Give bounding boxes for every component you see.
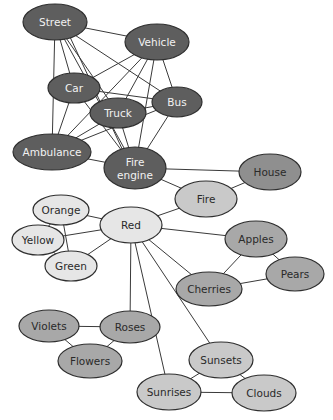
nodes-layer: StreetVehicleCarTruckBusAmbulanceFireeng… <box>12 4 324 411</box>
node-cherries: Cherries <box>176 272 242 306</box>
node-sunsets: Sunsets <box>189 342 253 378</box>
node-truck: Truck <box>90 98 146 128</box>
semantic-network-diagram: StreetVehicleCarTruckBusAmbulanceFireeng… <box>0 0 333 420</box>
node-label: Flowers <box>70 355 110 367</box>
node-fire: Fire <box>175 181 237 217</box>
node-sunrises: Sunrises <box>137 374 201 410</box>
node-label: Orange <box>42 204 81 216</box>
node-label: Cherries <box>187 283 231 295</box>
node-pears: Pears <box>266 257 324 291</box>
node-label: Apples <box>238 233 273 245</box>
node-yellow: Yellow <box>12 225 64 255</box>
node-ambulance: Ambulance <box>13 134 91 170</box>
node-label: Green <box>55 260 87 272</box>
node-flowers: Flowers <box>58 344 122 378</box>
node-label: Bus <box>167 96 186 108</box>
node-label: Ambulance <box>23 146 82 158</box>
node-label: Roses <box>115 321 146 333</box>
node-label: Sunrises <box>147 386 192 398</box>
edge-red-sunrises <box>131 225 169 392</box>
node-apples: Apples <box>225 221 287 257</box>
node-bus: Bus <box>152 87 202 117</box>
node-red: Red <box>100 207 162 243</box>
node-label: Pears <box>281 268 310 280</box>
node-label: engine <box>117 169 153 181</box>
node-vehicle: Vehicle <box>125 24 189 60</box>
node-label: Red <box>121 219 141 231</box>
node-car: Car <box>48 73 100 103</box>
node-label: Clouds <box>246 387 281 399</box>
node-label: House <box>254 166 287 178</box>
node-label: Yellow <box>21 234 55 246</box>
node-street: Street <box>23 4 87 40</box>
node-label: Fire <box>126 156 145 168</box>
node-roses: Roses <box>100 311 160 343</box>
node-label: Sunsets <box>200 354 242 366</box>
node-label: Street <box>39 16 71 28</box>
node-label: Fire <box>197 193 216 205</box>
node-label: Violets <box>31 320 66 332</box>
node-label: Vehicle <box>138 36 176 48</box>
node-fire-engine: Fireengine <box>104 147 166 189</box>
node-house: House <box>239 154 301 190</box>
node-clouds: Clouds <box>232 375 296 411</box>
node-violets: Violets <box>19 310 79 342</box>
node-orange: Orange <box>33 195 89 225</box>
node-label: Truck <box>103 107 133 119</box>
node-green: Green <box>45 251 97 281</box>
node-label: Car <box>65 82 84 94</box>
